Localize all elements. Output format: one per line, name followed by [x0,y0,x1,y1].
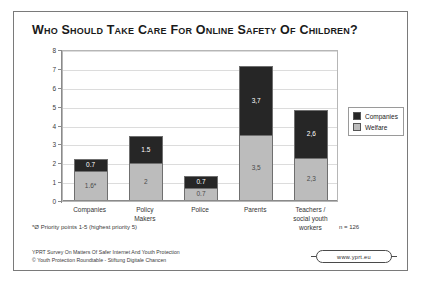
chart-plot-area: 0.71.6*1.520.70.73,73,52,62,3 [62,50,338,202]
slide-frame: Who Should Take Care For Online Safety O… [13,11,408,271]
gridline [63,89,337,90]
x-axis-label-line: workers [279,224,341,233]
x-axis-label-line: Makers [114,215,176,224]
bar-segment-welfare[interactable]: 2,3 [294,158,328,201]
bar-stack[interactable]: 0.71.6* [74,159,108,200]
bar-value-label: 2 [130,179,162,186]
legend-item-label: Companies [365,113,398,120]
y-axis-tick-label: 5 [30,103,56,110]
bar-value-label: 0.7 [75,162,107,169]
y-axis-tick-mark [58,50,62,51]
x-axis-label-line: Parents [224,206,286,215]
bar-value-label: 3,7 [240,98,272,105]
legend-item[interactable]: Companies [353,112,398,120]
bar-segment-welfare[interactable]: 3,5 [239,135,273,201]
bar-segment-companies[interactable]: 3,7 [239,66,273,136]
chart-legend: CompaniesWelfare [348,107,404,136]
logo-pill: www.yprt.eu [316,250,392,263]
bar-stack[interactable]: 1.52 [129,136,163,200]
footnote-text: *Ø Priority points 1-5 (highest priority… [32,224,137,230]
bar-stack[interactable]: 3,73,5 [239,66,273,200]
gridline [63,51,337,52]
bar-stack[interactable]: 0.70.7 [184,176,218,200]
y-axis-tick-mark [58,69,62,70]
sample-size-text: n = 126 [339,224,359,230]
x-axis-label-line: Police [169,206,231,215]
bar-stack[interactable]: 2,62,3 [294,110,328,200]
x-axis-tick-label: PolicyMakers [114,206,176,224]
legend-item-label: Welfare [365,124,387,131]
y-axis-tick-mark [58,163,62,164]
y-axis-tick-mark [58,126,62,127]
legend-swatch-icon [353,112,361,120]
source-line-1: YPRT Survey On Matters Of Safer Internet… [32,248,180,256]
y-axis-tick-label: 3 [30,141,56,148]
y-axis-tick-mark [58,182,62,183]
bar-segment-welfare[interactable]: 2 [129,163,163,201]
legend-swatch-icon [353,123,361,131]
bar-value-label: 1.6* [75,183,107,190]
gridline [63,108,337,109]
y-axis-tick-mark [58,88,62,89]
x-axis-label-line: social youth [279,215,341,224]
y-axis-tick-label: 6 [30,84,56,91]
x-axis-baseline [63,200,337,201]
bar-value-label: 0.7 [185,179,217,186]
x-axis-tick-label: Teachers /social youthworkers [279,206,341,232]
y-axis-tick-label: 7 [30,65,56,72]
bar-value-label: 2,3 [295,176,327,183]
x-axis-label-line: Companies [59,206,121,215]
y-axis-tick-mark [58,144,62,145]
source-credit: YPRT Survey On Matters Of Safer Internet… [32,248,180,264]
x-axis-tick-label: Parents [224,206,286,215]
y-axis-tick-mark [58,201,62,202]
bar-value-label: 2,6 [295,131,327,138]
bar-segment-companies[interactable]: 2,6 [294,110,328,159]
x-axis-label-line: Policy [114,206,176,215]
bar-segment-companies[interactable]: 1.5 [129,136,163,164]
yprt-logo[interactable]: www.yprt.eu [311,250,397,263]
logo-rule-right [391,256,397,257]
y-axis-tick-label: 0 [30,198,56,205]
x-axis-tick-label: Police [169,206,231,215]
x-axis-tick-label: Companies [59,206,121,215]
y-axis-tick-label: 2 [30,160,56,167]
y-axis-tick-label: 1 [30,179,56,186]
source-line-2: © Youth Protection Roundtable - Stiftung… [32,256,180,264]
logo-url-text: www.yprt.eu [337,254,371,260]
x-axis-label-line: Teachers / [279,206,341,215]
y-axis-tick-label: 4 [30,122,56,129]
y-axis-tick-label: 8 [30,47,56,54]
bar-value-label: 1.5 [130,147,162,154]
gridline [63,70,337,71]
page-title: Who Should Take Care For Online Safety O… [32,23,358,37]
bar-value-label: 0.7 [185,191,217,198]
bar-value-label: 3,5 [240,165,272,172]
y-axis-tick-mark [58,107,62,108]
legend-item[interactable]: Welfare [353,123,398,131]
bar-segment-welfare[interactable]: 1.6* [74,171,108,201]
